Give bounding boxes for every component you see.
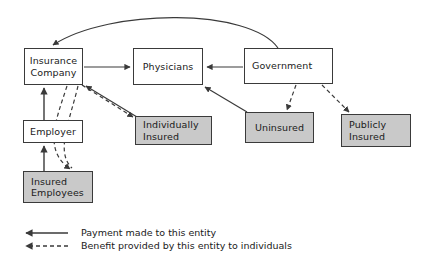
node-employer[interactable]: Employer [23,120,83,143]
node-label-line: Publicly [349,119,386,131]
legend-label-benefit: Benefit provided by this entity to indiv… [81,240,292,251]
edge-government-to-insurance-company [53,18,278,48]
node-uninsured[interactable]: Uninsured [245,112,314,143]
node-physicians[interactable]: Physicians [133,48,203,85]
node-label-line: Insured [143,131,179,143]
edge-uninsured-to-physicians [205,87,247,112]
node-label-line: Uninsured [255,122,304,134]
node-label-line: Individually [143,119,199,131]
node-label-line: Employees [31,187,84,199]
node-government[interactable]: Government [244,48,333,84]
edge-government-to-publicly-insured [322,85,349,112]
edge-insurance-company-to-individually-insured [82,85,133,117]
diagram-canvas: Insurance Company Physicians Government … [0,0,425,278]
node-insurance-company[interactable]: Insurance Company [24,48,83,85]
edge-government-to-uninsured [287,85,296,110]
node-individually-insured[interactable]: Individually Insured [135,116,212,145]
node-label-line: Insured [31,176,67,188]
node-publicly-insured[interactable]: Publicly Insured [341,114,411,147]
node-label-line: Insurance [30,55,78,67]
node-label-line: Company [31,67,77,79]
node-label-line: Employer [30,126,76,138]
node-label-line: Insured [349,131,385,143]
edge-individually-insured-to-insurance-company [86,86,137,117]
node-label-line: Government [252,60,312,72]
node-insured-employees[interactable]: Insured Employees [23,171,93,203]
legend-label-payment: Payment made to this entity [81,227,216,238]
node-label-line: Physicians [143,61,194,73]
